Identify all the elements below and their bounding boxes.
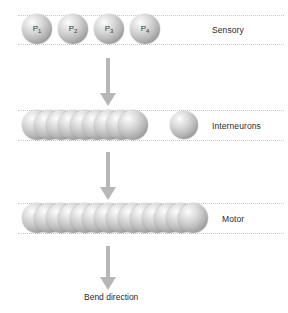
arrow-shaft	[106, 152, 110, 187]
arrow-head	[100, 277, 116, 290]
arrow-head	[100, 187, 116, 200]
sensory-neuron-p1-label: P1	[33, 25, 42, 33]
sensory-neuron-p2[interactable]: P2	[58, 14, 88, 44]
sensory-neuron-p4[interactable]: P4	[130, 14, 160, 44]
arrow-shaft	[106, 58, 110, 93]
sensory-neuron-p3-label: P3	[105, 25, 114, 33]
interneuron-chain	[22, 110, 148, 140]
motor-band-label: Motor	[222, 214, 244, 224]
interneuron-isolated-node[interactable]	[170, 111, 198, 139]
interneuron-chain-node[interactable]	[118, 110, 148, 140]
interneuron-band-guide-bottom	[18, 140, 284, 141]
sensory-neuron-p4-label: P4	[141, 25, 150, 33]
bend-direction-caption: Bend direction	[84, 292, 138, 302]
neural-circuit-diagram: P1 P2 P3 P4 Sensory Interneurons	[0, 0, 288, 313]
sensory-neuron-p1[interactable]: P1	[22, 14, 52, 44]
sensory-band-guide-bottom	[18, 44, 284, 45]
arrow-motor-to-bend	[97, 246, 119, 290]
motor-band-guide-bottom	[18, 233, 284, 234]
interneuron-band-label: Interneurons	[212, 121, 261, 131]
arrow-sensory-to-interneurons	[97, 58, 119, 106]
sensory-neuron-p3[interactable]: P3	[94, 14, 124, 44]
motor-chain	[22, 203, 208, 233]
arrow-interneurons-to-motor	[97, 152, 119, 200]
motor-chain-node[interactable]	[178, 203, 208, 233]
arrow-head	[100, 93, 116, 106]
sensory-neuron-chain: P1 P2 P3 P4	[22, 14, 162, 44]
arrow-shaft	[106, 246, 110, 277]
sensory-band-label: Sensory	[212, 25, 244, 35]
sensory-neuron-p2-label: P2	[69, 25, 78, 33]
